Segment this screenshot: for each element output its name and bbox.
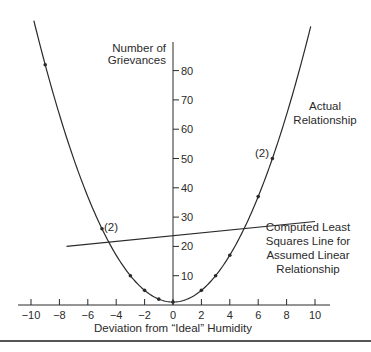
data-point bbox=[43, 63, 47, 67]
least-squares-label-line2: Squares Line for bbox=[266, 235, 351, 247]
y-tick-label: 80 bbox=[181, 65, 193, 77]
y-tick-label: 50 bbox=[181, 153, 193, 165]
multiplicity-label-left: (2) bbox=[104, 221, 118, 233]
x-axis-title: Deviation from “Ideal” Humidity bbox=[94, 322, 252, 334]
x-tick-label: −2 bbox=[138, 309, 151, 321]
bottom-rule bbox=[0, 340, 371, 342]
x-tick-label: −6 bbox=[82, 309, 95, 321]
y-tick-label: 20 bbox=[181, 240, 193, 252]
x-tick-label: 2 bbox=[198, 309, 204, 321]
y-tick-label: 60 bbox=[181, 123, 193, 135]
data-points bbox=[43, 63, 274, 304]
data-point bbox=[256, 195, 260, 199]
least-squares-label-line1: Computed Least bbox=[266, 221, 351, 233]
data-point bbox=[228, 253, 232, 257]
y-axis-title-line1: Number of bbox=[112, 42, 166, 54]
data-point bbox=[171, 300, 175, 304]
y-tick-label: 30 bbox=[181, 211, 193, 223]
actual-relationship-label-line2: Relationship bbox=[293, 114, 356, 126]
data-point bbox=[143, 289, 147, 293]
y-tick-label: 40 bbox=[181, 182, 193, 194]
x-tick-label: −10 bbox=[22, 309, 41, 321]
data-point bbox=[214, 274, 218, 278]
x-tick-label: 8 bbox=[284, 309, 290, 321]
x-tick-label: 0 bbox=[170, 309, 176, 321]
y-tick-label: 70 bbox=[181, 94, 193, 106]
y-axis-title-line2: Grievances bbox=[108, 54, 166, 66]
actual-relationship-label-line1: Actual bbox=[309, 100, 341, 112]
x-tick-label: 6 bbox=[255, 309, 261, 321]
x-tick-label: 10 bbox=[309, 309, 321, 321]
data-point bbox=[157, 297, 161, 301]
data-point bbox=[271, 157, 275, 161]
multiplicity-label-right: (2) bbox=[255, 147, 269, 159]
x-tick-label: −4 bbox=[110, 309, 123, 321]
x-tick-label: 4 bbox=[227, 309, 233, 321]
chart: −10−8−6−4−20246810 1020304050607080 Numb… bbox=[0, 0, 371, 352]
data-point bbox=[129, 274, 133, 278]
y-tick-label: 10 bbox=[181, 270, 193, 282]
data-point bbox=[200, 289, 204, 293]
x-tick-label: −8 bbox=[53, 309, 66, 321]
y-ticks: 1020304050607080 bbox=[173, 65, 193, 282]
least-squares-label-line4: Relationship bbox=[276, 263, 339, 275]
least-squares-label-line3: Assumed Linear bbox=[266, 249, 349, 261]
